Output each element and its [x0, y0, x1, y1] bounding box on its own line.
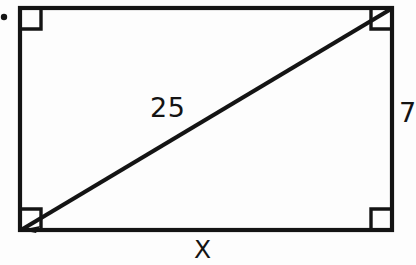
diagram-canvas [0, 0, 416, 265]
right-angle-marker-top-left [20, 8, 41, 29]
geometry-figure: 25 7 X [0, 0, 416, 265]
diagonal-line [21, 9, 391, 230]
diagonal-length-label: 25 [150, 94, 185, 121]
bullet-dot-mark [1, 14, 7, 20]
right-side-length-label: 7 [399, 99, 416, 126]
right-angle-marker-bottom-right [371, 209, 392, 230]
bottom-side-length-label: X [194, 237, 211, 262]
